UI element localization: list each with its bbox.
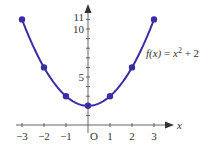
data-point (19, 16, 25, 22)
x-tick-label: 1 (107, 130, 113, 142)
y-tick-labels: 51011 (73, 11, 85, 83)
parabola-chart: −3−2−1123 51011 O x f(x) = x2 + 2 (0, 0, 218, 146)
y-tick-label: 5 (79, 71, 85, 83)
data-point (41, 64, 47, 70)
function-label: f(x) = x2 + 2 (146, 46, 199, 60)
x-tick-labels: −3−2−1123 (16, 130, 157, 142)
x-tick-label: 2 (129, 130, 135, 142)
y-axis-arrow-icon (85, 4, 92, 13)
data-point (85, 103, 91, 109)
x-tick-label: −3 (16, 130, 28, 142)
y-tick-label: 10 (73, 23, 85, 35)
x-axis-label: x (176, 119, 182, 131)
x-tick-label: 3 (151, 130, 157, 142)
x-axis-arrow-icon (165, 122, 174, 129)
x-tick-label: −2 (38, 130, 50, 142)
data-point (63, 93, 69, 99)
x-tick-label: −1 (60, 130, 72, 142)
data-point (107, 93, 113, 99)
y-tick-label: 11 (73, 11, 84, 23)
data-point (151, 16, 157, 22)
data-point (129, 64, 135, 70)
origin-label: O (90, 130, 98, 142)
axes (16, 10, 168, 133)
